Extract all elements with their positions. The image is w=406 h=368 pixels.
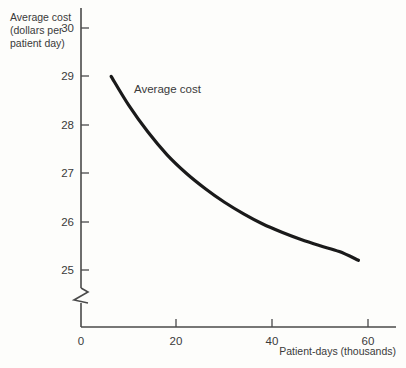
y-axis-break-icon [74, 288, 88, 303]
y-tick-label-26: 26 [61, 216, 74, 228]
y-tick-label-28: 28 [61, 119, 74, 131]
series-annotation-average-cost: Average cost [134, 83, 202, 95]
x-tick-label-0: 0 [78, 335, 84, 347]
average-cost-curve [111, 76, 358, 260]
y-tick-label-25: 25 [61, 264, 74, 276]
chart-container: 30 29 28 27 26 25 0 20 40 60 Average cos… [0, 0, 406, 368]
y-axis-title-line-2: (dollars per [10, 24, 63, 36]
y-tick-label-30: 30 [61, 22, 74, 34]
y-tick-label-29: 29 [61, 70, 74, 82]
chart-plot-area: 30 29 28 27 26 25 0 20 40 60 Average cos… [0, 0, 406, 368]
y-axis-title-line-1: Average cost [10, 11, 71, 23]
x-tick-label-40: 40 [266, 335, 279, 347]
y-tick-label-27: 27 [61, 167, 74, 179]
x-axis-title: Patient-days (thousands) [279, 345, 396, 357]
y-axis-title-line-3: patient day) [10, 37, 65, 49]
x-tick-label-20: 20 [170, 335, 183, 347]
